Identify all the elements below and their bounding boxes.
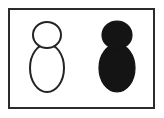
right-figure-head-circle [102, 21, 132, 49]
right-figure-body-oval [99, 44, 135, 92]
right-figure [99, 21, 135, 92]
left-figure-body-oval [30, 44, 64, 92]
rectangular-border [8, 8, 155, 109]
figure-canvas [10, 10, 157, 111]
left-figure-head-circle [33, 22, 61, 48]
left-figure [30, 22, 64, 92]
figure-root [0, 0, 164, 118]
